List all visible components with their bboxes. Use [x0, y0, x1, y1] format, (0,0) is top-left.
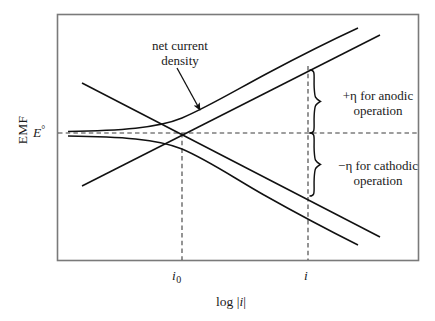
anodic-overpotential-brace [310, 70, 321, 133]
y-axis-label: EMF [15, 100, 31, 160]
x-axis-label-suffix: | [243, 294, 246, 309]
cathodic-overpotential-brace [310, 133, 321, 196]
cathodic-line-1: −η for cathodic [338, 158, 418, 173]
net-current-line-1: net current [152, 38, 208, 53]
x-axis-label: log |i| [188, 294, 274, 310]
anodic-line-2: operation [353, 103, 402, 118]
net-current-density-annotation: net currentdensity [129, 38, 231, 69]
figure-container: EMF E° net currentdensity +η for anodico… [0, 0, 435, 321]
i-symbol: i [304, 268, 308, 283]
cathodic-line-2: operation [353, 173, 402, 188]
i0-subscript: 0 [176, 274, 181, 285]
net-current-pointer-arrow [177, 68, 200, 110]
anodic-overpotential-annotation: +η for anodicoperation [326, 88, 430, 119]
anodic-line-1: +η for anodic [343, 88, 413, 103]
x-tick-label-i: i [304, 268, 308, 284]
e0-symbol: E [33, 125, 41, 140]
net-current-line-2: density [161, 53, 199, 68]
x-tick-label-i0: i0 [172, 268, 181, 286]
cathodic-overpotential-annotation: −η for cathodicoperation [326, 158, 430, 189]
x-axis-label-prefix: log | [216, 294, 239, 309]
e0-reference-label: E° [33, 124, 45, 141]
degree-symbol: ° [41, 124, 45, 135]
